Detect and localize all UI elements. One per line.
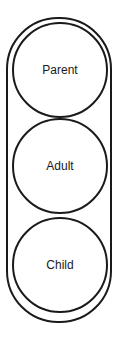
node-label: Child bbox=[46, 258, 73, 272]
ego-states-diagram: Parent Adult Child bbox=[0, 0, 118, 339]
node-label: Parent bbox=[42, 63, 77, 77]
node-adult: Adult bbox=[12, 118, 108, 214]
node-parent: Parent bbox=[12, 22, 108, 118]
node-child: Child bbox=[12, 217, 108, 313]
node-label: Adult bbox=[46, 159, 73, 173]
